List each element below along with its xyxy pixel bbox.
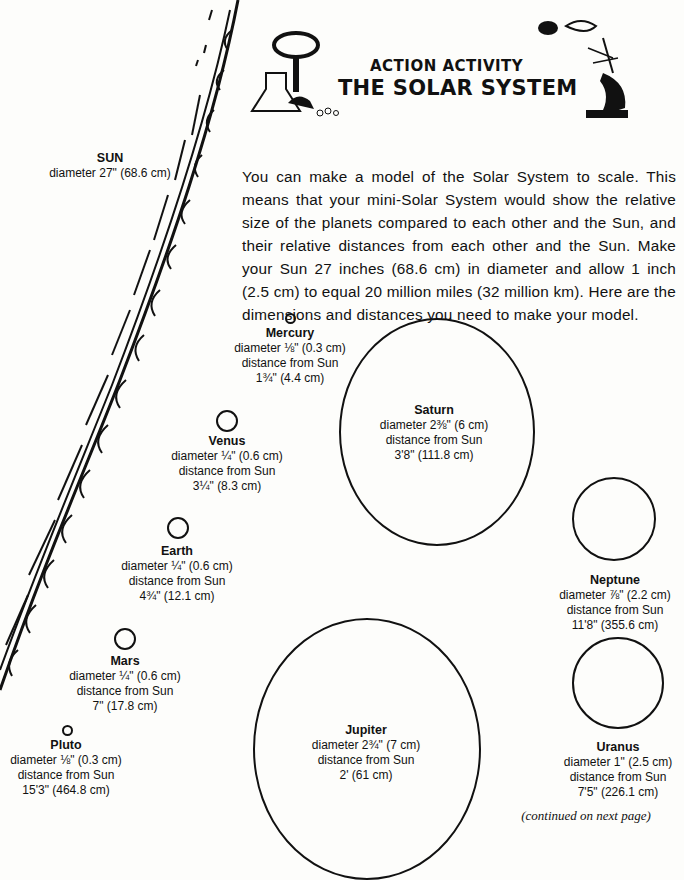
pluto-dist-label: distance from Sun bbox=[10, 768, 122, 783]
earth-distance: 4¾" (12.1 cm) bbox=[121, 589, 233, 604]
jupiter-name: Jupiter bbox=[312, 723, 420, 738]
saturn-label: Saturn diameter 2⅜" (6 cm) distance from… bbox=[380, 403, 488, 463]
mars-dist-label: distance from Sun bbox=[69, 684, 181, 699]
neptune-circle bbox=[572, 477, 656, 561]
uranus-label: Uranus diameter 1" (2.5 cm) distance fro… bbox=[564, 740, 672, 800]
mercury-name: Mercury bbox=[234, 326, 346, 341]
earth-circle bbox=[167, 517, 189, 539]
mars-distance: 7" (17.8 cm) bbox=[69, 699, 181, 714]
uranus-distance: 7'5" (226.1 cm) bbox=[564, 785, 672, 800]
earth-name: Earth bbox=[121, 544, 233, 559]
mars-name: Mars bbox=[69, 654, 181, 669]
mars-label: Mars diameter ¼" (0.6 cm) distance from … bbox=[69, 654, 181, 714]
saturn-name: Saturn bbox=[380, 403, 488, 418]
pluto-diameter: diameter ⅛" (0.3 cm) bbox=[10, 753, 122, 768]
saturn-diameter: diameter 2⅜" (6 cm) bbox=[380, 418, 488, 433]
saturn-distance: 3'8" (111.8 cm) bbox=[380, 448, 488, 463]
neptune-label: Neptune diameter ⅞" (2.2 cm) distance fr… bbox=[559, 573, 671, 633]
intro-paragraph: You can make a model of the Solar System… bbox=[242, 165, 676, 326]
earth-label: Earth diameter ¼" (0.6 cm) distance from… bbox=[121, 544, 233, 604]
mercury-label: Mercury diameter ⅛" (0.3 cm) distance fr… bbox=[234, 326, 346, 386]
jupiter-diameter: diameter 2¾" (7 cm) bbox=[312, 738, 420, 753]
header-kicker: ACTION ACTIVITY bbox=[370, 57, 523, 75]
sun-label: SUN diameter 27" (68.6 cm) bbox=[49, 151, 171, 181]
mercury-distance: 1¾" (4.4 cm) bbox=[234, 371, 346, 386]
sun-diameter: diameter 27" (68.6 cm) bbox=[49, 166, 171, 181]
venus-name: Venus bbox=[171, 434, 283, 449]
neptune-name: Neptune bbox=[559, 573, 671, 588]
venus-dist-label: distance from Sun bbox=[171, 464, 283, 479]
pluto-label: Pluto diameter ⅛" (0.3 cm) distance from… bbox=[10, 738, 122, 798]
mars-circle bbox=[114, 628, 136, 650]
mars-diameter: diameter ¼" (0.6 cm) bbox=[69, 669, 181, 684]
page-title: THE SOLAR SYSTEM bbox=[338, 76, 577, 100]
uranus-dist-label: distance from Sun bbox=[564, 770, 672, 785]
earth-dist-label: distance from Sun bbox=[121, 574, 233, 589]
neptune-dist-label: distance from Sun bbox=[559, 603, 671, 618]
jupiter-label: Jupiter diameter 2¾" (7 cm) distance fro… bbox=[312, 723, 420, 783]
mercury-circle bbox=[285, 313, 296, 324]
pluto-distance: 15'3" (464.8 cm) bbox=[10, 783, 122, 798]
venus-distance: 3¼" (8.3 cm) bbox=[171, 479, 283, 494]
uranus-diameter: diameter 1" (2.5 cm) bbox=[564, 755, 672, 770]
pluto-name: Pluto bbox=[10, 738, 122, 753]
sun-name: SUN bbox=[49, 151, 171, 166]
continued-note: (continued on next page) bbox=[521, 808, 651, 824]
jupiter-dist-label: distance from Sun bbox=[312, 753, 420, 768]
uranus-name: Uranus bbox=[564, 740, 672, 755]
venus-diameter: diameter ¼" (0.6 cm) bbox=[171, 449, 283, 464]
jupiter-distance: 2' (61 cm) bbox=[312, 768, 420, 783]
pluto-circle bbox=[62, 725, 73, 736]
uranus-circle bbox=[572, 637, 664, 729]
earth-diameter: diameter ¼" (0.6 cm) bbox=[121, 559, 233, 574]
neptune-diameter: diameter ⅞" (2.2 cm) bbox=[559, 588, 671, 603]
saturn-dist-label: distance from Sun bbox=[380, 433, 488, 448]
mercury-dist-label: distance from Sun bbox=[234, 356, 346, 371]
venus-label: Venus diameter ¼" (0.6 cm) distance from… bbox=[171, 434, 283, 494]
neptune-distance: 11'8" (355.6 cm) bbox=[559, 618, 671, 633]
venus-circle bbox=[216, 410, 238, 432]
mercury-diameter: diameter ⅛" (0.3 cm) bbox=[234, 341, 346, 356]
